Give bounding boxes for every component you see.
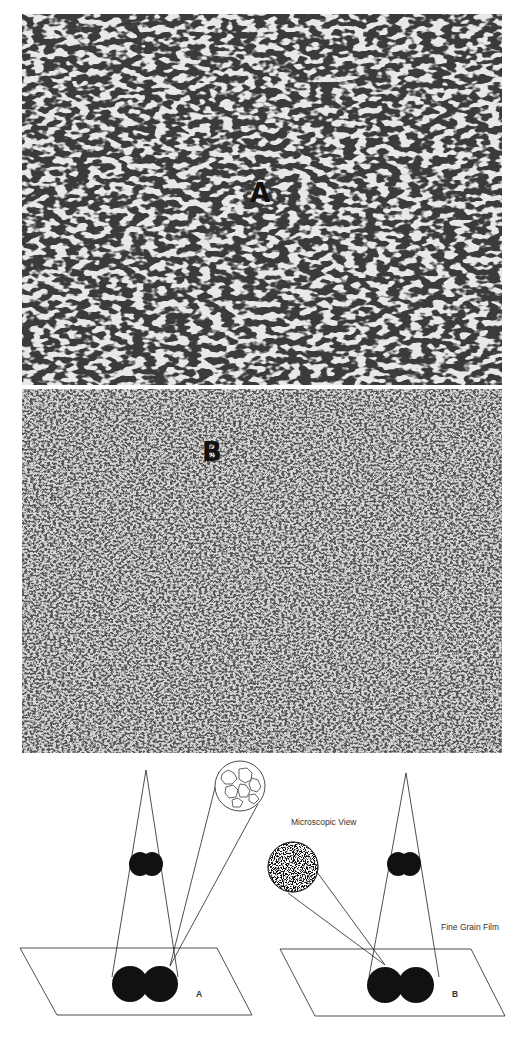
panel-a: [20, 761, 265, 1015]
grain-clump-b-left: [367, 967, 403, 1003]
microscopic-view-label: Microscopic View: [291, 817, 357, 827]
panel-b: [268, 773, 505, 1016]
grain-clump-a-right: [142, 966, 178, 1002]
photo-fine-grain: B: [22, 389, 502, 753]
fine-grain-film-label: Fine Grain Film: [441, 922, 499, 932]
fine-grain-texture: [22, 389, 502, 753]
grain-clump-b-right: [398, 967, 434, 1003]
photo-label-a: A: [250, 180, 270, 206]
diagram-drawing: [0, 760, 528, 1041]
photo-coarse-grain: A: [22, 14, 502, 385]
panel-a-label: A: [196, 989, 202, 999]
grain-diagram: Microscopic View Fine Grain Film A B: [0, 760, 528, 1041]
panel-b-label: B: [452, 989, 458, 999]
photo-label-b: B: [202, 439, 222, 465]
